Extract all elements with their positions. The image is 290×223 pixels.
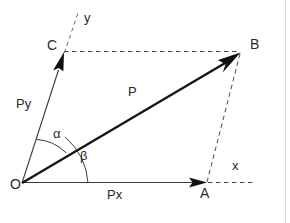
angle-label-alpha: α: [53, 127, 61, 140]
point-label-c: C: [47, 38, 57, 52]
vector-diagram-svg: [0, 0, 290, 223]
dashed-y-axis-extension: [62, 13, 78, 60]
vector-label-py: Py: [16, 97, 31, 110]
point-label-origin: O: [10, 177, 21, 191]
figure-canvas: O A B C x y P Px Py α β: [0, 0, 290, 223]
vector-label-px: Px: [107, 188, 122, 201]
point-label-b: B: [250, 37, 259, 51]
vector-p-arrowhead: [218, 53, 241, 73]
vector-label-p: P: [128, 85, 137, 98]
vector-p-shaft: [22, 63, 226, 184]
vector-py-arrowhead: [53, 52, 64, 71]
point-label-a: A: [200, 186, 209, 200]
angle-arc-alpha: [36, 139, 66, 153]
axis-label-x: x: [232, 159, 239, 172]
angle-label-beta: β: [80, 149, 87, 162]
axis-label-y: y: [84, 11, 91, 24]
